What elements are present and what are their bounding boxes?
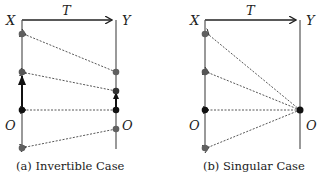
- y-point: [113, 69, 120, 76]
- x-point: [19, 69, 26, 76]
- caption: (a) Invertible Case: [16, 159, 125, 173]
- mapping-arrow: [209, 110, 300, 147]
- mapping-arrow: [209, 35, 300, 110]
- y-point: [113, 126, 120, 133]
- x-point: [202, 31, 209, 38]
- t-label: T: [246, 3, 256, 18]
- x-label: X: [189, 13, 200, 28]
- x-origin-label: O: [5, 118, 16, 133]
- x-origin-point: [19, 107, 26, 114]
- x-vector-arrowhead-icon: [18, 75, 26, 85]
- y-label: Y: [122, 13, 132, 28]
- y-origin-label: O: [122, 118, 133, 133]
- y-origin-point: [297, 107, 304, 114]
- x-point: [202, 69, 209, 76]
- mapping-arrow: [26, 73, 116, 91]
- diagram-canvas: T X Y O O (a) Invertible Case T X Y: [0, 0, 321, 179]
- x-origin-point: [202, 107, 209, 114]
- panel-invertible: T X Y O O (a) Invertible Case: [5, 3, 133, 173]
- mapping-arrow: [26, 129, 116, 147]
- x-point: [19, 145, 26, 152]
- caption: (b) Singular Case: [203, 159, 305, 173]
- mapping-arrow: [26, 35, 116, 72]
- y-origin-point: [113, 107, 120, 114]
- t-label: T: [62, 3, 72, 18]
- x-point: [202, 145, 209, 152]
- x-point: [19, 31, 26, 38]
- y-origin-label: O: [306, 118, 317, 133]
- mapping-arrow: [209, 73, 300, 110]
- x-origin-label: O: [189, 118, 200, 133]
- y-label: Y: [306, 13, 316, 28]
- x-label: X: [5, 13, 16, 28]
- panel-singular: T X Y O O (b) Singular Case: [189, 3, 317, 173]
- y-point: [113, 88, 120, 95]
